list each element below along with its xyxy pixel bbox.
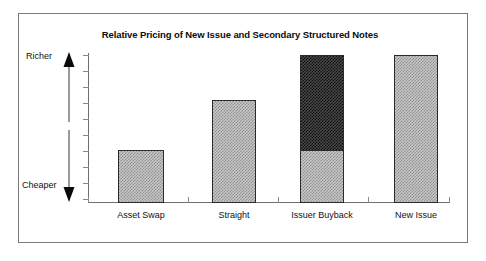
x-axis-label-issuer-buyback: Issuer Buyback [278, 210, 366, 220]
y-axis-tick [83, 87, 89, 88]
axis-label-richer: Richer [26, 51, 52, 61]
x-axis-label-new-issue: New Issue [376, 210, 456, 220]
bar-issuer-buyback-lower-segment [300, 150, 344, 203]
y-axis-tick [83, 71, 89, 72]
bar-issuer-buyback-upper-segment [300, 55, 344, 151]
y-axis-tick [83, 103, 89, 104]
y-axis-line [88, 53, 89, 203]
bar-new-issue [394, 55, 438, 203]
arrow-down-icon [62, 128, 76, 202]
arrow-up-icon [62, 52, 76, 124]
y-axis-tick [83, 183, 89, 184]
x-axis-label-asset-swap: Asset Swap [101, 210, 181, 220]
y-axis-tick [83, 135, 89, 136]
bar-asset-swap [118, 150, 164, 203]
x-axis-tick [449, 197, 450, 203]
y-axis-tick [83, 119, 89, 120]
y-axis-tick [83, 151, 89, 152]
x-axis-tick [88, 197, 89, 203]
x-axis-tick [368, 197, 369, 203]
y-axis-tick [83, 55, 89, 56]
x-axis-tick [278, 197, 279, 203]
x-axis-label-straight: Straight [194, 210, 274, 220]
chart-figure: Relative Pricing of New Issue and Second… [0, 0, 486, 261]
y-axis-tick [83, 167, 89, 168]
axis-label-cheaper: Cheaper [22, 180, 57, 190]
x-axis-tick [188, 197, 189, 203]
chart-title: Relative Pricing of New Issue and Second… [60, 29, 420, 40]
bar-straight [212, 100, 256, 203]
